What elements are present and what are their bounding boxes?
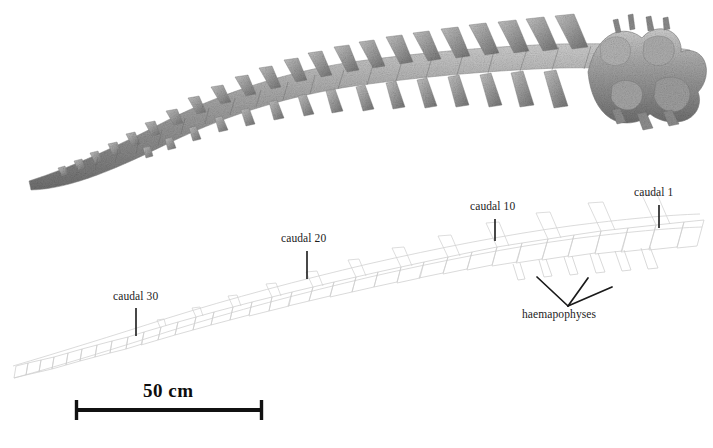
specimen-photograph	[29, 14, 706, 190]
label-haemapophyses: haemapophyses	[522, 308, 596, 320]
interpretive-line-drawing	[13, 194, 704, 378]
figure-canvas: caudal 1 caudal 10 caudal 20 caudal 30 h…	[0, 0, 713, 448]
haemapophyses-pointer	[537, 277, 612, 306]
label-caudal-10: caudal 10	[470, 200, 515, 212]
scale-bar	[75, 400, 263, 420]
label-caudal-30: caudal 30	[113, 290, 158, 302]
label-caudal-20: caudal 20	[281, 232, 326, 244]
scale-bar-label: 50 cm	[143, 380, 194, 402]
figure-graphics	[0, 0, 713, 448]
label-caudal-1: caudal 1	[634, 186, 673, 198]
